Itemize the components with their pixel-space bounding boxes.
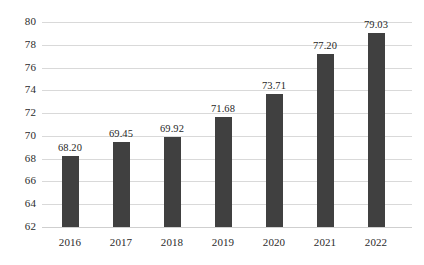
bar[interactable] [62, 156, 79, 227]
y-axis-tick-label: 66 [6, 175, 36, 186]
gridline [42, 227, 412, 228]
y-axis-tick-label: 80 [6, 16, 36, 27]
y-axis-tick-label: 70 [6, 130, 36, 141]
bar-value-label: 68.20 [40, 142, 100, 153]
gridline [42, 68, 412, 69]
y-axis-tick-label: 74 [6, 84, 36, 95]
bar-chart: 80787674727068666462 68.2069.4569.9271.6… [0, 0, 424, 265]
x-axis-tick-label: 2022 [346, 236, 406, 248]
bar-value-label: 79.03 [346, 19, 406, 30]
y-axis-tick-label: 78 [6, 39, 36, 50]
y-axis-tick-label: 64 [6, 198, 36, 209]
y-axis-tick-label: 76 [6, 62, 36, 73]
bar-value-label: 69.92 [142, 123, 202, 134]
plot-area [42, 22, 412, 227]
y-axis-tick-label: 62 [6, 221, 36, 232]
bar[interactable] [113, 142, 130, 227]
y-axis-tick-label: 68 [6, 153, 36, 164]
y-axis-tick-label: 72 [6, 107, 36, 118]
bar-value-label: 71.68 [193, 103, 253, 114]
gridline [42, 45, 412, 46]
bar-value-label: 77.20 [295, 40, 355, 51]
bar[interactable] [317, 54, 334, 227]
bar[interactable] [215, 117, 232, 227]
bar[interactable] [368, 33, 385, 227]
bar[interactable] [266, 94, 283, 227]
gridline [42, 90, 412, 91]
bar-value-label: 73.71 [244, 80, 304, 91]
bar[interactable] [164, 137, 181, 227]
